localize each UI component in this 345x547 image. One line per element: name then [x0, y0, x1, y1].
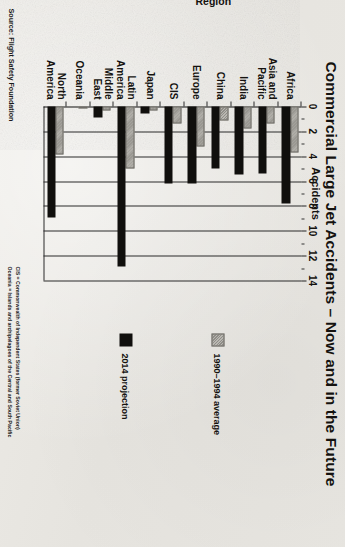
y-axis-title: Region [195, 0, 231, 6]
chart-row: Europe [184, 106, 207, 280]
y-tick-oceania [89, 101, 90, 106]
bar-india-average [243, 106, 251, 128]
bar-india-projection [234, 106, 242, 174]
y-tick-china [230, 101, 231, 106]
chart-row: Oceania [66, 106, 89, 280]
y-tick-europe [206, 101, 207, 106]
chart-row: CIS [160, 106, 183, 280]
x-tick-12 [301, 255, 306, 256]
chart-row: LatinAmerica [113, 106, 136, 280]
y-tick-middle-east [112, 101, 113, 106]
y-axis-label-japan: Japan [143, 29, 154, 99]
x-tick-2 [301, 131, 306, 132]
footnote-cis: CIS = Commonwealth of Independent States… [12, 266, 20, 437]
y-tick-japan [159, 101, 160, 106]
legend-item-avg: 1990–1994 average [209, 333, 227, 435]
legend-label-avg: 1990–1994 average [211, 353, 221, 435]
bar-asia-and-pacific-average [266, 106, 274, 123]
x-tick-8 [301, 205, 306, 206]
y-axis-label-north-america: NorthAmerica [44, 29, 66, 99]
y-tick-india [253, 101, 254, 106]
y-tick-north-america [65, 101, 66, 106]
y-axis-label-africa: Africa [284, 29, 295, 99]
x-tick-label-14: 14 [306, 274, 317, 285]
x-tick-4 [301, 156, 306, 157]
bar-north-america-average [55, 106, 63, 154]
x-tick-0 [301, 106, 306, 107]
y-tick-asia-and-pacific [277, 101, 278, 106]
bar-japan-projection [140, 106, 148, 113]
chart-row: NorthAmerica [43, 106, 66, 280]
x-tick-label-0: 0 [306, 103, 317, 109]
bar-middle-east-projection [93, 106, 101, 117]
rotated-figure-canvas: Commercial Large Jet Accidents – Now and… [0, 0, 345, 547]
chart-title: Commercial Large Jet Accidents – Now and… [321, 0, 339, 547]
bar-europe-projection [187, 106, 195, 183]
y-axis-label-middle-east: MiddleEast [91, 29, 113, 99]
bar-africa-projection [281, 106, 289, 203]
legend-item-proj: 2014 projection [117, 333, 135, 419]
chart-row: Africa [278, 106, 301, 280]
y-tick-africa [300, 101, 301, 106]
y-axis-label-asia-and-pacific: Asia andPacific [255, 29, 277, 99]
bar-cis-projection [164, 106, 172, 183]
bar-europe-average [196, 106, 204, 146]
bar-africa-average [290, 106, 298, 152]
chart-row: India [231, 106, 254, 280]
bar-china-projection [211, 106, 219, 168]
y-axis-label-china: China [214, 29, 225, 99]
chart-row: MiddleEast [90, 106, 113, 280]
bar-asia-and-pacific-projection [258, 106, 266, 173]
bar-middle-east-average [102, 106, 110, 110]
plot-area: 02468101214AfricaAsia andPacificIndiaChi… [43, 106, 301, 280]
y-axis-label-india: India [237, 29, 248, 99]
x-tick-label-10: 10 [306, 225, 317, 236]
x-tick-label-12: 12 [306, 250, 317, 261]
bar-japan-average [149, 106, 157, 110]
y-axis-label-oceania: Oceania [73, 29, 84, 99]
chart-row: Japan [137, 106, 160, 280]
x-tick-label-8: 8 [306, 203, 317, 209]
x-tick-6 [301, 181, 306, 182]
bar-oceania-average [78, 106, 86, 108]
bar-north-america-projection [47, 106, 55, 217]
bar-cis-average [172, 106, 180, 123]
y-tick-latin-america [136, 101, 137, 106]
y-axis-label-cis: CIS [167, 29, 178, 99]
legend-swatch-proj [119, 333, 132, 346]
bar-china-average [219, 106, 227, 120]
x-tick-14 [301, 280, 306, 281]
x-tick-label-6: 6 [306, 178, 317, 184]
footnote-oceania: Oceania = Islands and archipelagoes of t… [4, 266, 12, 437]
y-axis-label-latin-america: LatinAmerica [114, 29, 136, 99]
x-tick-label-2: 2 [306, 128, 317, 134]
legend-label-proj: 2014 projection [119, 353, 129, 419]
bar-latin-america-average [125, 106, 133, 168]
bar-latin-america-projection [117, 106, 125, 266]
legend-swatch-avg [211, 333, 224, 346]
chart-row: China [207, 106, 230, 280]
y-tick-cis [183, 101, 184, 106]
x-tick-label-4: 4 [306, 153, 317, 159]
chart-row: Asia andPacific [254, 106, 277, 280]
y-axis-label-europe: Europe [190, 29, 201, 99]
footnotes: CIS = Commonwealth of Independent States… [4, 266, 20, 437]
x-tick-10 [301, 230, 306, 231]
source-credit: Source: Flight Safety Foundation [6, 8, 15, 121]
